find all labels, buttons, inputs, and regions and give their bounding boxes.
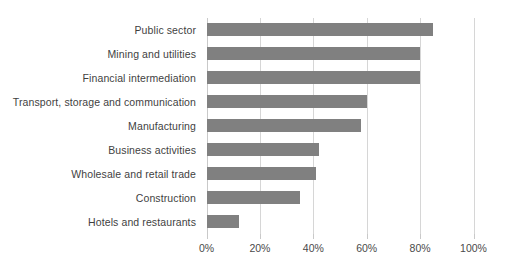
category-row: Public sector [0, 18, 202, 42]
category-label: Business activities [108, 144, 196, 156]
category-label: Public sector [135, 24, 196, 36]
category-row: Construction [0, 186, 202, 210]
x-tick-label: 80% [410, 242, 431, 254]
category-label: Financial intermediation [83, 72, 196, 84]
bar [207, 71, 421, 84]
x-tick-mark [260, 234, 261, 239]
x-tick-label: 60% [356, 242, 377, 254]
bar-chart: Public sector Mining and utilities Finan… [0, 0, 513, 278]
bar [207, 167, 316, 180]
x-tick-label: 20% [249, 242, 270, 254]
bar-row [207, 114, 474, 138]
category-label: Wholesale and retail trade [71, 168, 196, 180]
x-tick-mark [313, 234, 314, 239]
category-label: Manufacturing [128, 120, 196, 132]
category-label: Mining and utilities [108, 48, 196, 60]
x-tick-mark [420, 234, 421, 239]
category-row: Wholesale and retail trade [0, 162, 202, 186]
bar [207, 119, 362, 132]
category-row: Mining and utilities [0, 42, 202, 66]
bar-row [207, 162, 474, 186]
bar [207, 23, 434, 36]
bar-row [207, 90, 474, 114]
bar [207, 143, 319, 156]
category-row: Business activities [0, 138, 202, 162]
x-tick-label: 0% [199, 242, 214, 254]
category-label: Construction [136, 192, 196, 204]
x-tick-label: 100% [460, 242, 487, 254]
category-row: Hotels and restaurants [0, 210, 202, 234]
bars-layer [207, 18, 474, 234]
category-row: Transport, storage and communication [0, 90, 202, 114]
category-label: Transport, storage and communication [13, 96, 196, 108]
gridline [474, 18, 475, 234]
bar [207, 215, 239, 228]
category-label: Hotels and restaurants [88, 216, 196, 228]
x-tick-label: 40% [303, 242, 324, 254]
bar-row [207, 66, 474, 90]
bar-row [207, 18, 474, 42]
plot-area [207, 18, 474, 234]
value-axis: 0%20%40%60%80%100% [207, 234, 474, 264]
bar-row [207, 42, 474, 66]
category-axis: Public sector Mining and utilities Finan… [0, 18, 202, 234]
bar-row [207, 210, 474, 234]
bar [207, 95, 367, 108]
x-tick-mark [474, 234, 475, 239]
x-tick-mark [367, 234, 368, 239]
bar-row [207, 138, 474, 162]
bar [207, 47, 421, 60]
x-tick-mark [207, 234, 208, 239]
category-row: Financial intermediation [0, 66, 202, 90]
category-row: Manufacturing [0, 114, 202, 138]
bar-row [207, 186, 474, 210]
bar [207, 191, 300, 204]
